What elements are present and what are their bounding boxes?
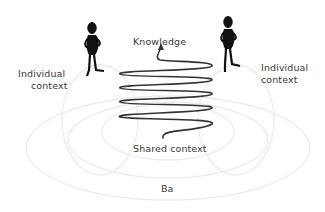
person-figure-right [221, 17, 240, 73]
individual-context-left-line2: context [31, 80, 68, 91]
knowledge-label: Knowledge [133, 36, 186, 47]
ba-label: Ba [161, 183, 174, 194]
diagram-artwork [0, 0, 325, 212]
individual-context-left-line1: Individual [18, 68, 65, 79]
individual-context-right-line2: context [261, 74, 298, 85]
ba-diagram: Knowledge Individual context Individual … [0, 0, 325, 212]
individual-context-right-line1: Individual [261, 62, 308, 73]
shared-context-label: Shared context [133, 143, 207, 154]
